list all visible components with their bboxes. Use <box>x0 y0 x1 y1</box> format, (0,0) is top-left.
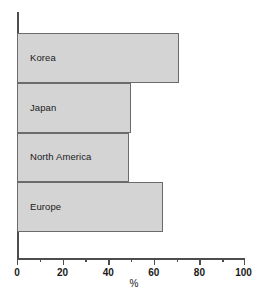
bar-row: Europe <box>17 182 245 232</box>
x-tick-60 <box>154 258 155 265</box>
bar-label-korea: Korea <box>30 53 56 63</box>
bar-label-europe: Europe <box>30 202 61 212</box>
x-axis-title-text: % <box>130 278 139 289</box>
bar-japan: Japan <box>17 83 131 133</box>
x-minor-tick-30 <box>85 258 86 262</box>
bar-korea: Korea <box>17 33 179 83</box>
x-tick-100 <box>244 258 245 265</box>
bar-group: Korea Japan North America Europe <box>17 33 245 232</box>
x-tick-label-80: 80 <box>194 268 205 278</box>
bar-europe: Europe <box>17 182 163 232</box>
x-tick-20 <box>63 258 64 265</box>
x-tick-0 <box>17 258 18 265</box>
x-tick-80 <box>199 258 200 265</box>
bar-row: Korea <box>17 33 245 83</box>
x-tick-label-40: 40 <box>103 268 114 278</box>
x-axis-title: % <box>0 279 262 289</box>
bar-label-north-america: North America <box>30 153 92 163</box>
bar-row: North America <box>17 133 245 183</box>
bar-north-america: North America <box>17 133 129 183</box>
x-tick-label-100: 100 <box>235 268 252 278</box>
x-minor-tick-90 <box>222 258 223 262</box>
x-minor-tick-50 <box>131 258 132 262</box>
horizontal-bar-chart: Korea Japan North America Europe <box>0 0 262 303</box>
x-tick-40 <box>108 258 109 265</box>
bar-label-japan: Japan <box>30 103 56 113</box>
x-minor-tick-10 <box>40 258 41 262</box>
x-tick-label-60: 60 <box>148 268 159 278</box>
plot-area: Korea Japan North America Europe <box>17 12 245 258</box>
x-tick-label-0: 0 <box>14 268 20 278</box>
x-minor-tick-70 <box>177 258 178 262</box>
bar-row: Japan <box>17 83 245 133</box>
x-tick-label-20: 20 <box>57 268 68 278</box>
